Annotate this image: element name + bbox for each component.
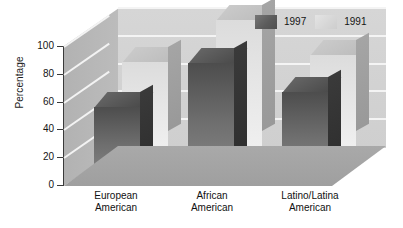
x-axis-label-group: European American African American Latin… — [64, 190, 386, 224]
x-axis-label-line1: Latino/Latina — [252, 190, 368, 202]
x-axis-label-line1: African — [160, 190, 264, 202]
y-axis-tick-label: 80 — [43, 68, 54, 80]
bar-chart-figure: Percentage 100 80 60 40 20 0 — [0, 0, 403, 228]
y-axis-title: Percentage — [14, 38, 25, 128]
y-axis-tick-label: 60 — [43, 96, 54, 108]
y-axis-tick-label: 0 — [48, 179, 54, 191]
legend-swatch-1991 — [315, 15, 337, 29]
bar-side-face — [356, 33, 369, 131]
x-axis-label-latino-latina-american: Latino/Latina American — [252, 190, 368, 214]
y-axis-tick-label: 100 — [37, 40, 54, 52]
x-axis-label-line2: American — [160, 202, 264, 214]
legend-entry-1991: 1991 — [315, 15, 366, 29]
x-axis-label-african-american: African American — [160, 190, 264, 214]
x-axis-label-line1: European — [64, 190, 168, 202]
legend-swatch-1997 — [255, 15, 277, 29]
plot-area — [64, 8, 386, 186]
legend-entry-1997: 1997 — [255, 15, 306, 29]
y-axis-tick-label: 20 — [43, 151, 54, 163]
x-axis-label-line2: American — [64, 202, 168, 214]
legend-label-1997: 1997 — [284, 17, 306, 27]
chart-legend: 1997 1991 — [255, 14, 367, 30]
x-axis-label-european-american: European American — [64, 190, 168, 214]
x-axis-label-line2: American — [252, 202, 368, 214]
bar-side-face — [168, 40, 181, 131]
y-axis-tick-mark — [57, 185, 64, 186]
y-axis-tick-group: 100 80 60 40 20 0 — [28, 40, 64, 190]
plot-floor — [64, 146, 386, 186]
y-axis-tick-label: 40 — [43, 123, 54, 135]
legend-label-1991: 1991 — [344, 17, 366, 27]
